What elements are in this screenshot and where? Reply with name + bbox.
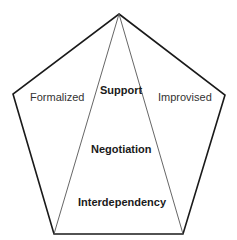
label-support: Support — [100, 84, 142, 96]
label-negotiation: Negotiation — [91, 143, 152, 155]
label-formalized: Formalized — [30, 91, 84, 103]
label-improvised: Improvised — [158, 91, 212, 103]
label-interdependency: Interdependency — [78, 196, 166, 208]
